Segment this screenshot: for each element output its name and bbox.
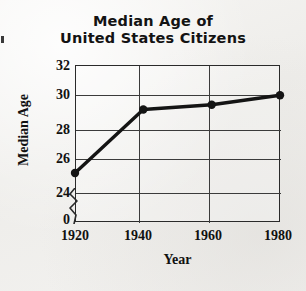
y-axis-tick-labels: 32 30 28 26 24 0 <box>34 0 70 291</box>
x-tick-1960: 1960 <box>178 228 238 244</box>
gridline-x-1940 <box>139 66 140 223</box>
y-tick-24: 24 <box>36 185 70 201</box>
y-tick-26: 26 <box>36 151 70 167</box>
gridline-y-28 <box>76 130 281 131</box>
x-axis-title: Year <box>75 252 280 268</box>
y-tick-28: 28 <box>36 122 70 138</box>
gridline-y-26 <box>76 159 281 160</box>
y-tick-30: 30 <box>36 87 70 103</box>
x-tick-1940: 1940 <box>108 228 168 244</box>
plot-area <box>75 65 280 222</box>
x-tick-1920: 1920 <box>45 228 105 244</box>
y-tick-0: 0 <box>36 212 70 228</box>
gridline-x-1960 <box>209 66 210 223</box>
chart-figure: Median Age of United States Citizens 32 … <box>0 0 306 291</box>
gridline-y-24 <box>76 193 281 194</box>
y-tick-32: 32 <box>36 58 70 74</box>
x-tick-1980: 1980 <box>248 228 306 244</box>
gridline-y-30 <box>76 95 281 96</box>
y-axis-title: Median Age <box>16 82 32 178</box>
